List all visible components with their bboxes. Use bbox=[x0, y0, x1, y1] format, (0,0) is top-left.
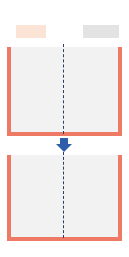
blood-label bbox=[16, 25, 46, 38]
membrane-divider-top bbox=[63, 44, 64, 134]
membrane-divider-bottom bbox=[63, 152, 64, 238]
top-tank bbox=[7, 47, 122, 136]
bottom-tank bbox=[7, 155, 122, 241]
dialysate-label bbox=[83, 25, 119, 38]
down-arrow-icon bbox=[56, 138, 72, 152]
